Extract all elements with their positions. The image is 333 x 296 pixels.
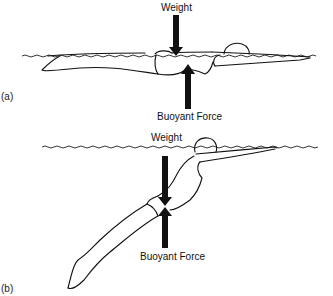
water-line-a — [22, 55, 316, 57]
panel-a-drawing — [22, 15, 316, 109]
panel-label-a: (a) — [1, 92, 13, 102]
weight-label-a: Weight — [161, 3, 192, 13]
swimmer-inclined — [68, 138, 277, 289]
buoyant-arrow-b — [158, 207, 172, 248]
weight-label-b: Weight — [151, 133, 182, 143]
panel-label-b: (b) — [1, 284, 13, 294]
buoyancy-diagram: Weight Buoyant Force (a) Weight Buoyant … — [0, 0, 333, 296]
panel-b-drawing — [42, 138, 318, 289]
weight-arrow-a — [169, 15, 183, 56]
weight-arrow-b — [158, 156, 172, 206]
buoyant-label-b: Buoyant Force — [140, 252, 205, 262]
buoyant-label-a: Buoyant Force — [157, 112, 222, 122]
